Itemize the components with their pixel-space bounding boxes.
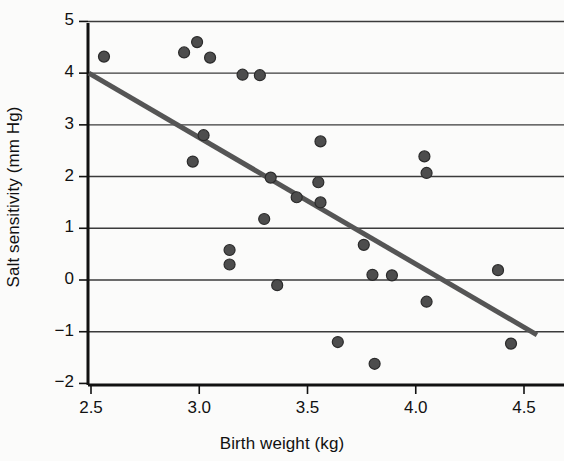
y-tick-label-1: 1 [40,217,74,237]
y-tick-label-0: 0 [40,269,74,289]
data-point [198,130,209,141]
data-point [272,280,283,291]
data-point [254,70,265,81]
data-point [224,259,235,270]
y-tick-label-2: 2 [40,166,74,186]
data-point [205,52,216,63]
y-tick-label-4: 4 [40,62,74,82]
x-tick-label-4.0: 4.0 [393,398,439,418]
data-point [259,213,270,224]
data-point [187,156,198,167]
data-point [386,270,397,281]
scatter-plot-figure: 2.53.03.54.04.5 543210−1−2 Birth weight … [0,0,564,461]
data-point [237,69,248,80]
y-tick-label-5: 5 [40,10,74,30]
gridlines [88,21,564,331]
data-point [421,167,432,178]
y-tick-label-neg2: −2 [40,372,74,392]
data-point [313,177,324,188]
data-point [224,245,235,256]
data-point [265,172,276,183]
data-point [98,51,109,62]
data-point [493,265,504,276]
data-point [315,197,326,208]
x-tick-label-2.5: 2.5 [68,398,114,418]
data-point [179,47,190,58]
data-point [367,269,378,280]
data-point [291,192,302,203]
y-tick-label-neg1: −1 [40,321,74,341]
x-tick-label-3.0: 3.0 [176,398,222,418]
data-point [369,358,380,369]
data-point [358,239,369,250]
x-tick-label-3.5: 3.5 [285,398,331,418]
y-tick-label-3: 3 [40,114,74,134]
data-point [506,338,517,349]
data-point [419,151,430,162]
data-point [192,37,203,48]
data-point [421,296,432,307]
data-point [332,337,343,348]
y-axis-title: Salt sensitivity (mm Hg) [4,2,26,392]
trend-line [89,73,537,335]
plot-canvas [0,0,564,461]
data-point [315,136,326,147]
x-tick-label-4.5: 4.5 [501,398,547,418]
x-axis-title: Birth weight (kg) [0,434,564,454]
